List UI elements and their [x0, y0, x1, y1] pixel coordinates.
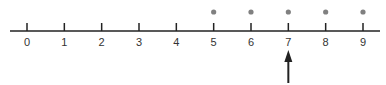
tick-labels: 0123456789: [24, 36, 366, 48]
dots: [211, 9, 366, 14]
tick-label: 6: [248, 36, 254, 48]
tick-label: 0: [24, 36, 30, 48]
dot-marker: [248, 9, 253, 14]
tick-label: 9: [360, 36, 366, 48]
tick-label: 7: [285, 36, 291, 48]
tick-label: 3: [136, 36, 142, 48]
tick-label: 5: [211, 36, 217, 48]
dot-marker: [360, 9, 365, 14]
dot-marker: [211, 9, 216, 14]
number-line-diagram: 0123456789: [0, 0, 386, 85]
tick-label: 2: [99, 36, 105, 48]
arrow-up-icon: [284, 50, 292, 83]
ticks: [27, 23, 363, 31]
dot-marker: [286, 9, 291, 14]
arrow-head: [284, 50, 292, 62]
tick-label: 1: [61, 36, 67, 48]
dot-marker: [323, 9, 328, 14]
tick-label: 4: [173, 36, 179, 48]
tick-label: 8: [323, 36, 329, 48]
